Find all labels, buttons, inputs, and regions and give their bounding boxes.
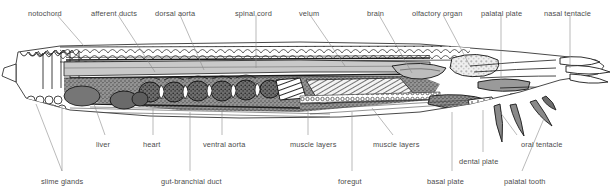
hagfish-anatomy-figure: notochordafferent ductsdorsal aortaspina… <box>0 0 616 195</box>
label-velum: velum <box>299 9 319 18</box>
label-liver: liver <box>96 140 110 149</box>
label-notochord: notochord <box>28 9 62 18</box>
leader-slime_glands_a <box>36 104 62 171</box>
label-nasal_tentacle: nasal tentacle <box>544 9 591 18</box>
leader-notochord <box>57 15 84 46</box>
label-oral_tentacle: oral tentacle <box>521 140 563 149</box>
label-olfactory_organ: olfactory organ <box>412 9 462 18</box>
label-heart: heart <box>143 140 160 149</box>
liver-structure <box>64 86 100 106</box>
palatal-plate-structure <box>478 79 530 91</box>
label-muscle_layers_1: muscle layers <box>290 140 336 149</box>
label-foregut: foregut <box>338 177 362 186</box>
anatomy-illustration <box>0 0 616 195</box>
label-slime_glands: slime glands <box>41 177 83 186</box>
label-dorsal_aorta: dorsal aorta <box>155 9 195 18</box>
tail-region <box>2 64 16 82</box>
label-basal_plate: basal plate <box>427 177 464 186</box>
label-palatal_plate: palatal plate <box>481 9 522 18</box>
label-muscle_layers_2: muscle layers <box>373 140 419 149</box>
label-dental_plate: dental plate <box>459 157 498 166</box>
label-gut_branchial_duct: gut-branchial duct <box>161 177 222 186</box>
label-brain: brain <box>367 9 384 18</box>
label-spinal_cord: spinal cord <box>235 9 272 18</box>
label-ventral_aorta: ventral aorta <box>203 140 245 149</box>
label-afferent_ducts: afferent ducts <box>91 9 137 18</box>
label-palatal_tooth: palatal tooth <box>504 177 546 186</box>
